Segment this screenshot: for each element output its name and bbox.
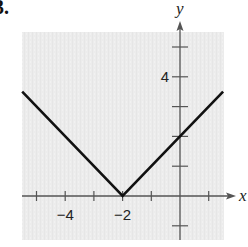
absolute-value-graph: −4−24 x y [0, 0, 248, 247]
x-tick-label: −4 [57, 206, 74, 223]
y-axis-label: y [174, 0, 184, 18]
x-tick-label: −2 [114, 206, 131, 223]
x-axis-label: x [238, 186, 247, 205]
y-tick-label: 4 [161, 68, 169, 85]
